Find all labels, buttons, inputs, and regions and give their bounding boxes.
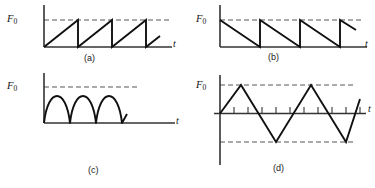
panel-a-caption: (a): [84, 53, 95, 63]
panel-d-time-label: t: [368, 103, 371, 114]
panel-a-amplitude-label: F0: [7, 13, 17, 24]
panel-b-plot: [188, 0, 375, 70]
panel-a-waveform: [44, 20, 160, 47]
panel-d-amplitude-label: F0: [196, 79, 206, 90]
panel-c-amplitude-label: F0: [7, 80, 17, 91]
panel-b-time-label: t: [365, 38, 368, 49]
waveform-figure: F0 t (a) F0 t (b) F0: [0, 0, 375, 188]
panel-c-waveform: [44, 96, 127, 123]
panel-a-time-label: t: [173, 38, 176, 49]
panel-d: F0 t: [188, 70, 375, 188]
panel-a: F0 t (a): [0, 0, 188, 70]
panel-b: F0 t (b): [188, 0, 375, 70]
panel-c-time-label: t: [176, 115, 179, 126]
panel-b-amplitude-label: F0: [196, 13, 206, 24]
panel-d-caption: (d): [273, 163, 284, 173]
panel-b-waveform: [220, 20, 356, 47]
panel-c: F0 t (c): [0, 70, 188, 188]
panel-c-caption: (c): [88, 165, 99, 175]
panel-b-caption: (b): [268, 52, 279, 62]
